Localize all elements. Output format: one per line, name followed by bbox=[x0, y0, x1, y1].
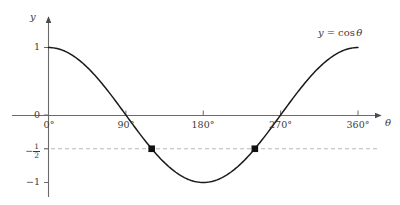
curve-label: y=cosθ bbox=[318, 28, 362, 38]
x-tick-label-180: 180° bbox=[183, 120, 223, 130]
minus-sign: − bbox=[25, 145, 33, 156]
x-tick-label-0: 0° bbox=[34, 120, 64, 130]
y-tick-label-minus-half: −12 bbox=[8, 143, 40, 160]
y-axis-ticks bbox=[44, 48, 49, 183]
fraction-denominator: 2 bbox=[33, 152, 40, 160]
y-tick-label-1: 1 bbox=[20, 42, 40, 52]
x-tick-label-90: 90° bbox=[109, 120, 143, 130]
curve-label-theta: θ bbox=[355, 27, 363, 38]
fraction-one-half: 12 bbox=[33, 143, 40, 160]
curve-label-y: y bbox=[318, 27, 324, 38]
x-tick-label-270: 270° bbox=[260, 120, 301, 130]
x-axis-ticks bbox=[49, 111, 359, 116]
marked-point-240deg bbox=[252, 145, 259, 152]
y-tick-label-0: 0 bbox=[20, 110, 40, 120]
x-tick-label-360: 360° bbox=[338, 120, 378, 130]
curve-label-equals: = bbox=[324, 27, 338, 38]
cosine-graph-figure: y θ y=cosθ 1 0 −12 −1 0° 90° 180° 270° 3… bbox=[0, 0, 400, 205]
y-axis-label: y bbox=[30, 12, 36, 22]
x-axis-label: θ bbox=[385, 118, 391, 128]
marked-point-120deg bbox=[148, 145, 155, 152]
curve-label-cos: cos bbox=[338, 27, 355, 38]
y-tick-label-minus-1: −1 bbox=[14, 177, 40, 187]
